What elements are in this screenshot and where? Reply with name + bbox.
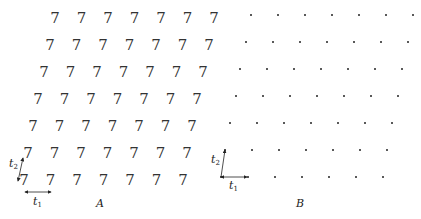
panel-a-t1-label: t1 bbox=[33, 196, 42, 209]
panel-b-t2-arrow-icon bbox=[221, 150, 225, 177]
panel-b-t2-label: t2 bbox=[211, 154, 220, 167]
panel-b-t1-label: t1 bbox=[229, 180, 238, 193]
lattice-vectors bbox=[0, 0, 421, 219]
panel-a-t2-arrow-icon bbox=[18, 158, 23, 181]
panel-a-caption: A bbox=[96, 198, 104, 209]
panel-b-caption: B bbox=[296, 198, 304, 209]
panel-a-t2-label: t2 bbox=[9, 158, 18, 171]
